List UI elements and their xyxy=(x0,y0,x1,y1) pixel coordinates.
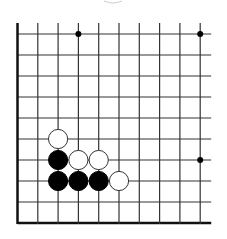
white-stone[interactable] xyxy=(49,129,68,148)
partial-stone-arc xyxy=(104,1,122,3)
go-board[interactable] xyxy=(0,0,227,239)
white-stone[interactable] xyxy=(89,150,108,169)
star-point xyxy=(75,31,81,37)
black-stone[interactable] xyxy=(89,171,108,190)
black-stone[interactable] xyxy=(49,171,68,190)
go-board-canvas[interactable] xyxy=(0,0,227,239)
black-stone[interactable] xyxy=(49,150,68,169)
grid-lines xyxy=(18,23,212,224)
white-stone[interactable] xyxy=(69,150,88,169)
partial-stone-edge xyxy=(104,1,122,3)
star-point xyxy=(197,157,203,163)
white-stone[interactable] xyxy=(109,171,128,190)
star-point xyxy=(197,31,203,37)
black-stone[interactable] xyxy=(69,171,88,190)
